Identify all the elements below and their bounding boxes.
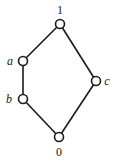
node-c xyxy=(92,77,101,86)
edges xyxy=(23,24,96,137)
edge-1-c xyxy=(60,24,96,81)
node-a xyxy=(19,57,28,66)
edge-c-0 xyxy=(59,81,96,137)
node-1 xyxy=(56,20,65,29)
nodes xyxy=(19,20,101,142)
edge-1-a xyxy=(23,24,60,61)
node-label-1: 1 xyxy=(57,3,63,17)
hasse-diagram: 1abc0 xyxy=(0,0,117,163)
node-label-c: c xyxy=(104,74,110,88)
node-0 xyxy=(55,133,64,142)
edge-b-0 xyxy=(23,99,59,137)
node-label-a: a xyxy=(7,54,13,68)
node-b xyxy=(19,95,28,104)
node-label-b: b xyxy=(6,92,12,106)
node-label-0: 0 xyxy=(56,145,62,159)
